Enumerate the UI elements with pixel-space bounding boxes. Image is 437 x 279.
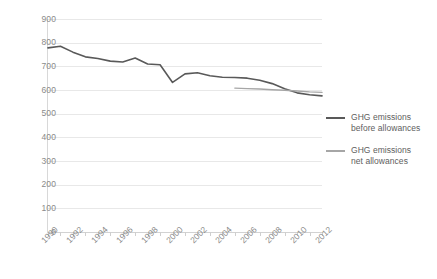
legend-item-net-allowances: GHG emissions net allowances — [326, 145, 436, 166]
line-chart: 9008007006005004003002001000 19901992199… — [0, 0, 437, 279]
chart-legend: GHG emissions before allowances GHG emis… — [326, 112, 436, 178]
legend-label-before-allowances: GHG emissions before allowances — [351, 112, 420, 133]
series-line-ghg-net-allowances — [235, 88, 322, 92]
legend-label-net-allowances: GHG emissions net allowances — [351, 145, 411, 166]
legend-swatch-before-allowances — [326, 117, 345, 119]
legend-swatch-net-allowances — [326, 150, 345, 152]
legend-label-line2: net allowances — [351, 156, 408, 166]
legend-label-line2: before allowances — [351, 123, 420, 133]
series-line-ghg-before-allowances — [48, 46, 322, 96]
legend-item-before-allowances: GHG emissions before allowances — [326, 112, 436, 133]
legend-label-line1: GHG emissions — [351, 145, 411, 155]
legend-label-line1: GHG emissions — [351, 112, 411, 122]
